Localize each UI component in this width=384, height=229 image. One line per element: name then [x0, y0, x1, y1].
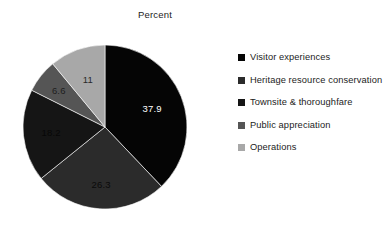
pie-slice-value-label: 6.6	[52, 85, 66, 96]
legend-item-label: Townsite & thoroughfare	[250, 97, 353, 109]
pie-svg: 37.926.318.26.611	[22, 44, 188, 210]
pie-slice-value-label: 18.2	[42, 127, 61, 138]
legend-item-label: Visitor experiences	[250, 52, 330, 64]
legend-swatch-icon	[238, 122, 245, 129]
chart-legend: Visitor experiencesHeritage resource con…	[238, 52, 384, 165]
legend-item[interactable]: Townsite & thoroughfare	[238, 97, 384, 109]
legend-item-label: Operations	[250, 142, 296, 154]
chart-title: Percent	[0, 9, 310, 20]
legend-item[interactable]: Heritage resource conservation	[238, 75, 384, 87]
legend-swatch-icon	[238, 144, 245, 151]
pie-slice-value-label: 37.9	[143, 103, 162, 114]
legend-swatch-icon	[238, 99, 245, 106]
pie-chart: Percent 37.926.318.26.611 Visitor experi…	[0, 0, 384, 229]
legend-swatch-icon	[238, 54, 245, 61]
pie-slice-value-label: 26.3	[92, 179, 111, 190]
legend-item-label: Heritage resource conservation	[250, 75, 382, 87]
pie-slice-value-label: 11	[83, 74, 93, 85]
legend-item[interactable]: Public appreciation	[238, 120, 384, 132]
legend-swatch-icon	[238, 77, 245, 84]
pie-plot-area: 37.926.318.26.611	[22, 44, 188, 210]
legend-item[interactable]: Operations	[238, 142, 384, 154]
legend-item-label: Public appreciation	[250, 120, 330, 132]
legend-item[interactable]: Visitor experiences	[238, 52, 384, 64]
